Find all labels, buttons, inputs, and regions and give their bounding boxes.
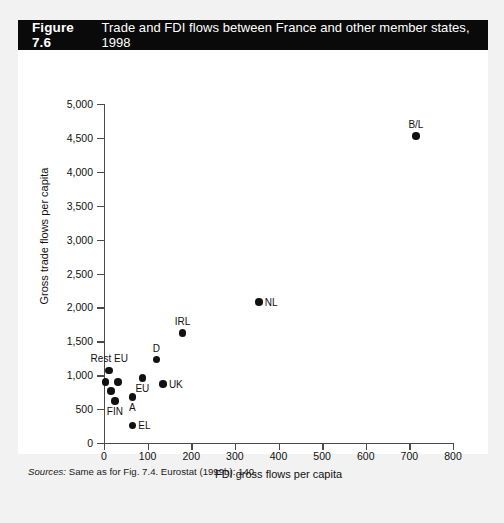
scatter-point: [179, 329, 187, 337]
y-tick: [97, 375, 104, 376]
scatter-point-label: B/L: [408, 119, 423, 130]
x-tick: [104, 443, 105, 450]
y-tick: [97, 341, 104, 342]
x-tick-label: 100: [126, 450, 170, 462]
y-tick-label: 0: [29, 437, 93, 449]
scatter-point-label: FIN: [107, 406, 123, 417]
y-axis-title: Gross trade flows per capita: [38, 106, 50, 366]
y-tick-label: 1,000: [29, 369, 93, 381]
scatter-point: [102, 378, 110, 386]
scatter-point: [107, 387, 115, 395]
y-tick: [97, 206, 104, 207]
scatter-point: [159, 380, 167, 388]
scatter-point: [114, 378, 122, 386]
scatter-point: [111, 397, 119, 405]
figure-container: Figure 7.6 Trade and FDI flows between F…: [18, 20, 488, 480]
y-tick: [97, 409, 104, 410]
x-tick-label: 500: [300, 450, 344, 462]
y-tick: [97, 240, 104, 241]
scatter-point-label: NL: [265, 296, 278, 307]
figure-title-bar: Figure 7.6 Trade and FDI flows between F…: [18, 20, 488, 50]
x-tick: [148, 443, 149, 450]
y-tick-label: 500: [29, 403, 93, 415]
y-tick: [97, 274, 104, 275]
sources-text: Same as for Fig. 7.4. Eurostat (1999b): …: [66, 466, 257, 477]
y-tick: [97, 307, 104, 308]
x-tick: [453, 443, 454, 450]
scatter-point-label: EU: [135, 383, 149, 394]
scatter-point-label: A: [129, 402, 136, 413]
y-tick: [97, 172, 104, 173]
x-tick-label: 300: [213, 450, 257, 462]
x-tick-label: 400: [257, 450, 301, 462]
scatter-point: [412, 132, 420, 140]
x-tick-label: 200: [169, 450, 213, 462]
chart-plot-panel: 05001,0001,5002,0002,5003,0003,5004,0004…: [18, 50, 488, 454]
scatter-point: [105, 367, 113, 375]
x-tick-label: 800: [431, 450, 475, 462]
y-tick: [97, 138, 104, 139]
scatter-point: [139, 374, 147, 382]
scatter-point: [255, 298, 263, 306]
x-tick: [409, 443, 410, 450]
sources-label: Sources:: [28, 466, 66, 477]
x-tick: [191, 443, 192, 450]
scatter-point-label: UK: [169, 379, 183, 390]
x-tick: [235, 443, 236, 450]
x-tick-label: 0: [82, 450, 126, 462]
scatter-point-label: D: [153, 343, 160, 354]
figure-title: Trade and FDI flows between France and o…: [101, 20, 488, 50]
x-tick: [322, 443, 323, 450]
y-tick: [97, 104, 104, 105]
x-tick-label: 600: [344, 450, 388, 462]
scatter-point: [153, 356, 161, 364]
x-tick-label: 700: [387, 450, 431, 462]
x-tick: [279, 443, 280, 450]
scatter-point-label: IRL: [175, 316, 191, 327]
scatter-point-label: EL: [138, 420, 150, 431]
scatter-point: [129, 422, 137, 430]
y-axis-line: [104, 104, 105, 444]
figure-number: Figure 7.6: [32, 20, 94, 50]
scatter-point-label: Rest EU: [91, 353, 128, 364]
y-tick: [97, 443, 104, 444]
sources-note: Sources: Same as for Fig. 7.4. Eurostat …: [28, 466, 257, 477]
x-tick: [366, 443, 367, 450]
scatter-point: [129, 393, 137, 401]
